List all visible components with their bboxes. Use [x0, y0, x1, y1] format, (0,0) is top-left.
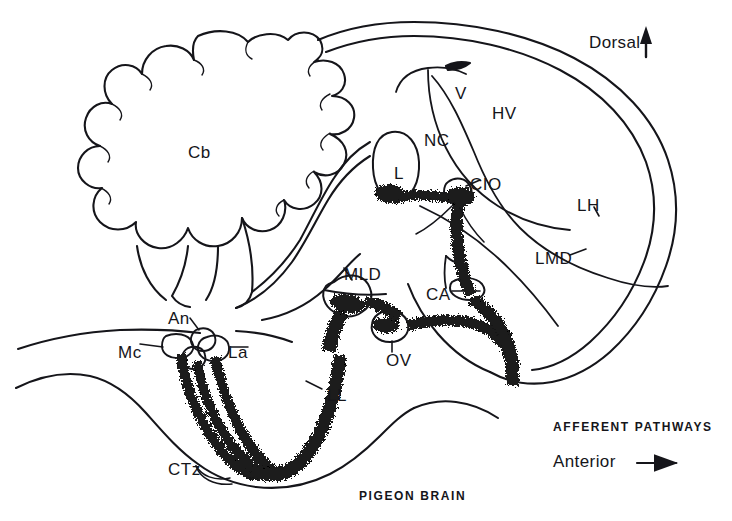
dorsal-arrow-icon — [640, 26, 652, 57]
cerebellar-peduncle — [137, 218, 253, 308]
label-ll: LL — [327, 386, 347, 406]
cio-junction-lines — [416, 206, 484, 242]
label-v: V — [455, 84, 467, 104]
label-ctz: CTz — [168, 460, 201, 480]
direction-label-anterior: Anterior — [553, 452, 616, 472]
label-lmd: LMD — [535, 249, 572, 269]
label-la: La — [228, 343, 248, 363]
afferent-pathway-stipple — [176, 185, 519, 482]
pigeon-brain-diagram — [0, 0, 732, 521]
caption-afferent-pathways: AFFERENT PATHWAYS — [553, 420, 713, 434]
label-cio: CIO — [470, 175, 502, 195]
caption-pigeon-brain: PIGEON BRAIN — [359, 489, 466, 503]
label-an: An — [168, 309, 190, 329]
label-lh: LH — [577, 196, 600, 216]
direction-label-dorsal: Dorsal — [589, 33, 641, 53]
label-hv: HV — [492, 104, 517, 124]
label-mld: MLD — [344, 265, 381, 285]
label-ca: CA — [426, 285, 451, 305]
ll-leader — [306, 381, 322, 389]
label-mc: Mc — [118, 343, 142, 363]
figure-canvas: Cb V HV NC L CIO LH LMD CA MLD OV An Mc … — [0, 0, 732, 521]
label-cb: Cb — [188, 143, 211, 163]
label-nc: NC — [424, 131, 450, 151]
label-l: L — [394, 164, 404, 184]
label-ov: OV — [386, 351, 412, 371]
